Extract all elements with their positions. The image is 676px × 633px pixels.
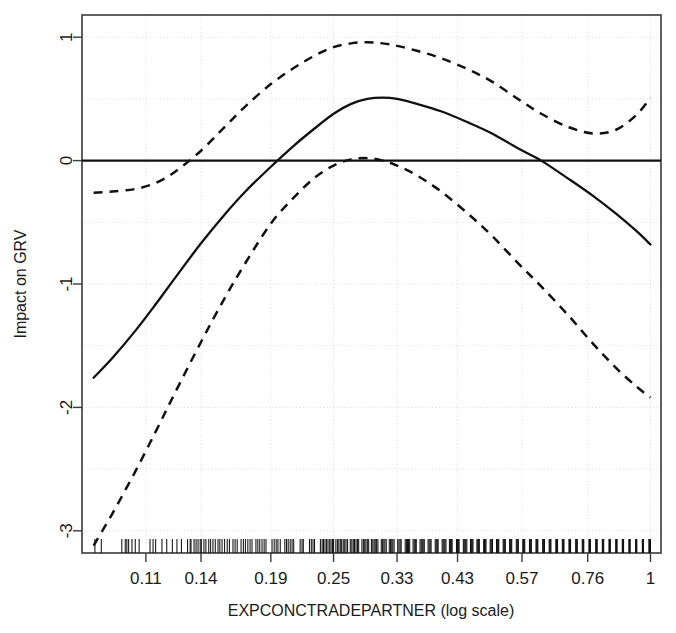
- y-tick-label-1: 1: [57, 32, 76, 41]
- y-tick-label--2: -2: [57, 400, 76, 415]
- plot-background: [0, 0, 676, 633]
- partial-effect-plot: 0.110.140.190.250.330.430.570.76110-1-2-…: [0, 0, 676, 633]
- x-tick-label-0.19: 0.19: [254, 569, 287, 588]
- x-tick-label-0.33: 0.33: [380, 569, 413, 588]
- chart-figure: 0.110.140.190.250.330.430.570.76110-1-2-…: [0, 0, 676, 633]
- x-tick-label-0.14: 0.14: [184, 569, 217, 588]
- y-tick-label--1: -1: [57, 276, 76, 291]
- x-axis-title: EXPCONCTRADEPARTNER (log scale): [228, 602, 515, 619]
- y-tick-label-0: 0: [57, 156, 76, 165]
- x-tick-label-0.43: 0.43: [441, 569, 474, 588]
- y-tick-label--3: -3: [57, 523, 76, 538]
- x-tick-label-0.76: 0.76: [571, 569, 604, 588]
- x-tick-label-0.25: 0.25: [317, 569, 350, 588]
- x-tick-label-1: 1: [646, 569, 655, 588]
- x-tick-label-0.11: 0.11: [130, 569, 162, 588]
- y-axis-title: Impact on GRV: [12, 229, 29, 338]
- x-tick-label-0.57: 0.57: [505, 569, 538, 588]
